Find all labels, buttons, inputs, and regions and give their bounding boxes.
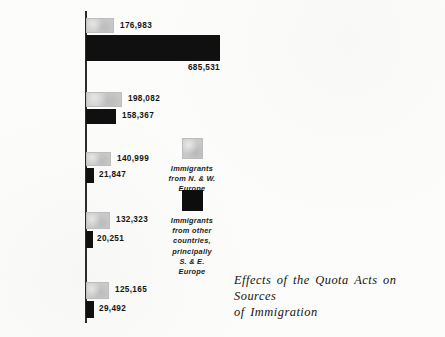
bar-value-label: 140,999 [117,154,149,163]
bar-value-label: 158,367 [122,111,154,120]
bar-value-label: 20,251 [97,234,124,243]
legend-swatch-gray-icon [182,138,203,159]
legend-item-nw-europe: Immigrants from N. & W. Europe [146,138,238,195]
legend-swatch-black-icon [182,190,203,211]
bar-nw-europe [86,18,114,33]
bar-nw-europe [86,212,110,229]
bar-value-label: 125,165 [115,285,147,294]
bar-value-label: 29,492 [99,304,126,313]
bar-chart: AVERAGE ANNUAL INFLOW 1907-1914 176,983 … [0,0,445,337]
bar-nw-europe [86,152,111,166]
bar-other-countries [86,35,220,61]
bar-other-countries [86,301,94,318]
bar-other-countries [86,109,116,124]
legend-item-other-countries: Immigrants from other countries, princip… [146,190,238,277]
bar-value-label: 198,082 [128,94,160,103]
bar-value-label: 132,323 [116,215,148,224]
caption-line-2: of Immigration [234,304,439,320]
bar-other-countries [86,168,94,183]
bar-nw-europe [86,282,109,299]
bar-value-label: 685,531 [130,63,220,72]
chart-caption: Effects of the Quota Acts on Sources of … [234,272,439,320]
caption-line-1: Effects of the Quota Acts on Sources [234,272,439,304]
bar-value-label: 176,983 [120,21,152,30]
bar-value-label: 21,847 [99,170,126,179]
bar-other-countries [86,231,93,248]
legend-label: Immigrants from other countries, princip… [146,216,238,277]
bar-nw-europe [86,92,122,107]
